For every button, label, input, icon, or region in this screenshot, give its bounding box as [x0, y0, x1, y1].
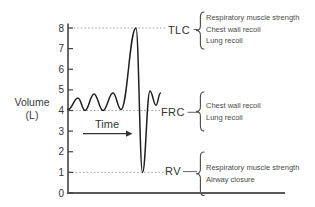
- rv-determinants: Respiratory muscle strength Airway closu…: [206, 162, 299, 185]
- y-tick-label: 8: [58, 23, 64, 34]
- y-axis-label: Volume (L): [8, 96, 56, 122]
- tlc-determinant-2: Chest wall recoil: [206, 24, 299, 36]
- tlc-determinants: Respiratory muscle strength Chest wall r…: [206, 12, 299, 47]
- rv-label: RV: [165, 165, 181, 177]
- y-tick-label: 0: [58, 188, 64, 199]
- frc-determinants: Chest wall recoil Lung recoil: [206, 100, 261, 123]
- y-tick-label: 2: [58, 146, 64, 157]
- x-axis-time-label: Time: [88, 118, 126, 130]
- y-tick-label: 5: [58, 84, 64, 95]
- y-tick-label: 3: [58, 126, 64, 137]
- frc-label: FRC: [161, 106, 185, 118]
- frc-brace: [196, 92, 204, 131]
- tlc-brace: [196, 12, 204, 49]
- time-arrow-head: [126, 131, 133, 137]
- frc-determinant-1: Chest wall recoil: [206, 100, 261, 112]
- tlc-determinant-1: Respiratory muscle strength: [206, 12, 299, 24]
- rv-brace: [196, 152, 204, 196]
- tlc-label: TLC: [168, 24, 190, 36]
- volume-trace: [68, 28, 161, 172]
- y-tick-label: 6: [58, 64, 64, 75]
- y-tick-label: 4: [58, 105, 64, 116]
- y-tick-label: 7: [58, 43, 64, 54]
- y-axis-label-line1: Volume: [8, 96, 56, 109]
- tlc-determinant-3: Lung recoil: [206, 35, 299, 47]
- rv-determinant-1: Respiratory muscle strength: [206, 162, 299, 174]
- y-tick-label: 1: [58, 167, 64, 178]
- rv-determinant-2: Airway closure: [206, 174, 299, 186]
- lung-volume-figure: 876543210 Volume (L) Time TLC Respirator…: [0, 0, 315, 207]
- frc-determinant-2: Lung recoil: [206, 112, 261, 124]
- y-axis-label-line2: (L): [8, 109, 56, 122]
